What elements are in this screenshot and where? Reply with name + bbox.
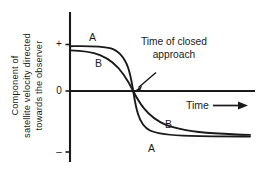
time-axis-arrow-icon: [213, 102, 248, 110]
callout-arrow-icon: [134, 73, 156, 92]
velocity-time-chart-figure: Component of satellite velocity directed…: [0, 0, 261, 171]
closed-approach-annotation-line-2: approach: [141, 49, 207, 62]
y-tick-label-plus: +: [52, 39, 66, 49]
closed-approach-annotation-line-1: Time of closed: [141, 36, 207, 49]
chart-plot-area: [0, 0, 261, 171]
closed-approach-annotation: Time of closed approach: [141, 36, 207, 62]
curve-label-a-bottom: A: [148, 143, 155, 154]
x-axis-title: Time: [186, 100, 209, 111]
curve-label-b-top: B: [95, 58, 102, 69]
curve-label-b-bottom: B: [165, 119, 172, 130]
y-tick-label-zero: 0: [52, 86, 66, 96]
curve-label-a-top: A: [89, 32, 96, 43]
y-tick-label-minus: –: [52, 147, 66, 157]
